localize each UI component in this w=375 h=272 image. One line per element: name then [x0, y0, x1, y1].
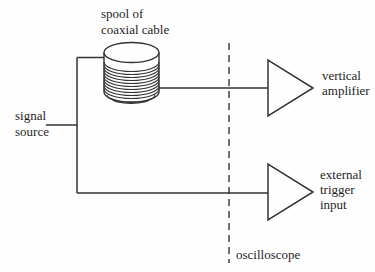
external-trigger-label: external trigger input — [320, 167, 362, 212]
signal-source-label-line1: signal — [15, 108, 49, 124]
oscilloscope-label: oscilloscope — [236, 247, 300, 263]
spool-label: spool of coaxial cable — [101, 6, 169, 38]
external-trigger-input-symbol — [268, 164, 313, 220]
spool-label-line2: coaxial cable — [101, 22, 169, 38]
vertical-amplifier-label-line2: amplifier — [322, 83, 370, 98]
diagram-drawing — [0, 0, 375, 272]
spool-top-ellipse — [104, 43, 159, 63]
vertical-amplifier-label-line1: vertical — [322, 68, 370, 83]
external-trigger-label-line1: external — [320, 167, 362, 182]
vertical-amplifier-symbol — [268, 60, 313, 116]
signal-source-label-line2: source — [15, 124, 49, 140]
vertical-amplifier-label: vertical amplifier — [322, 68, 370, 98]
spool-label-line1: spool of — [101, 6, 169, 22]
external-trigger-label-line3: input — [320, 197, 362, 212]
circuit-diagram: spool of coaxial cable signal source ver… — [0, 0, 375, 272]
spool-of-coaxial-cable-symbol — [104, 43, 159, 104]
external-trigger-label-line2: trigger — [320, 182, 362, 197]
signal-source-label: signal source — [15, 108, 49, 140]
